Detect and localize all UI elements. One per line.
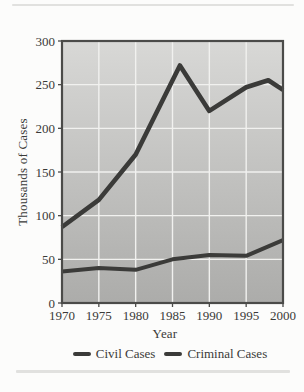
y-tick-label: 0 bbox=[49, 296, 56, 311]
legend-label: Criminal Cases bbox=[187, 346, 267, 362]
y-tick-label: 200 bbox=[36, 121, 56, 136]
legend-label: Civil Cases bbox=[96, 346, 156, 362]
legend-item: Criminal Cases bbox=[164, 346, 267, 362]
x-tick-label: 2000 bbox=[270, 308, 296, 323]
legend-line-marker-icon bbox=[73, 352, 91, 357]
cases-line-chart: 1970197519801985199019952000050100150200… bbox=[0, 0, 304, 392]
y-tick-label: 50 bbox=[42, 252, 55, 267]
x-tick-label: 1980 bbox=[123, 308, 149, 323]
y-tick-label: 100 bbox=[36, 208, 56, 223]
x-axis-title: Year bbox=[153, 326, 178, 341]
figure-page: 1970197519801985199019952000050100150200… bbox=[0, 0, 304, 392]
x-tick-label: 1990 bbox=[196, 308, 222, 323]
x-tick-label: 1985 bbox=[160, 308, 186, 323]
y-tick-label: 150 bbox=[36, 165, 56, 180]
legend-item: Civil Cases bbox=[73, 346, 156, 362]
scan-artifact-bottom bbox=[16, 370, 290, 373]
y-tick-label: 300 bbox=[36, 34, 56, 49]
chart-legend: Civil CasesCriminal Cases bbox=[36, 346, 304, 362]
legend-line-marker-icon bbox=[164, 352, 182, 357]
x-tick-label: 1975 bbox=[86, 308, 112, 323]
y-tick-label: 250 bbox=[36, 77, 56, 92]
y-axis-title: Thousands of Cases bbox=[15, 118, 30, 226]
x-tick-label: 1995 bbox=[233, 308, 259, 323]
